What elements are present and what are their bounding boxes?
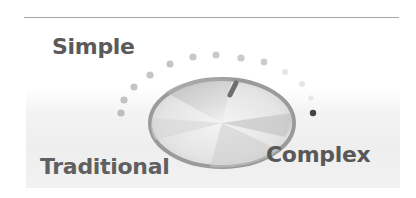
active-dot: [310, 110, 316, 116]
label-simple: Simple: [52, 34, 135, 59]
label-traditional: Traditional: [40, 154, 170, 179]
label-complex: Complex: [266, 142, 370, 167]
